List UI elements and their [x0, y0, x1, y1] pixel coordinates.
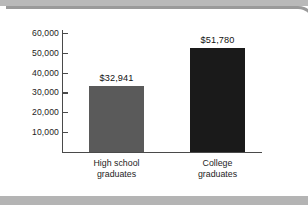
x-category-label-line-1: College — [175, 158, 260, 169]
y-tick-label-50000: 50,000 — [32, 48, 59, 58]
bar-college-graduates[interactable] — [190, 48, 245, 152]
y-tick-label-40000: 40,000 — [32, 68, 59, 78]
chart-figure: 60,000 50,000 40,000 30,000 20,000 10,00… — [0, 0, 308, 205]
y-tick-50000 — [63, 53, 68, 54]
y-tick-60000 — [63, 33, 68, 34]
y-tick-20000 — [63, 112, 68, 113]
bar-value-label-college-graduates: $51,780 — [190, 35, 245, 45]
x-category-label-line-1: High school — [74, 158, 159, 169]
bar-value-label-high-school-graduates: $32,941 — [89, 73, 144, 83]
x-category-label-line-2: graduates — [175, 169, 260, 180]
x-axis-line — [62, 152, 262, 153]
y-tick-30000 — [63, 92, 68, 93]
x-category-label-line-2: graduates — [74, 169, 159, 180]
bar-high-school-graduates[interactable] — [89, 86, 144, 152]
y-tick-label-60000: 60,000 — [32, 28, 59, 38]
y-tick-label-20000: 20,000 — [32, 107, 59, 117]
y-tick-10000 — [63, 132, 68, 133]
x-category-label-high-school-graduates: High school graduates — [74, 158, 159, 180]
x-category-label-college-graduates: College graduates — [175, 158, 260, 180]
y-tick-40000 — [63, 73, 68, 74]
bar-chart-plot: 60,000 50,000 40,000 30,000 20,000 10,00… — [0, 0, 308, 205]
y-tick-label-30000: 30,000 — [32, 87, 59, 97]
y-tick-label-10000: 10,000 — [32, 127, 59, 137]
